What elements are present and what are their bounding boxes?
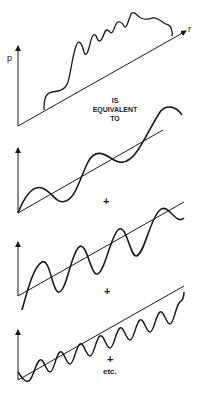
- plus-sign-1: +: [103, 195, 109, 207]
- caption-line-3: TO: [80, 114, 150, 123]
- component-2-wave: [22, 208, 184, 310]
- caption-line-2: EQUIVALENT: [80, 105, 150, 114]
- caption-line-1: IS: [80, 96, 150, 105]
- component-1-baseline: [18, 130, 163, 213]
- plus-sign-3: +: [107, 353, 113, 365]
- component-3-baseline: [18, 286, 184, 380]
- equivalence-caption: IS EQUIVALENT TO: [80, 96, 150, 123]
- etc-label: etc.: [103, 367, 117, 376]
- r-axis-label: r: [188, 24, 191, 34]
- p-axis-label: p: [7, 53, 12, 63]
- component-2-plot: [18, 202, 184, 310]
- component-2-baseline: [18, 202, 184, 296]
- component-3-plot: [18, 286, 184, 381]
- diagram-canvas: [0, 0, 199, 404]
- component-3-wave: [18, 292, 184, 381]
- plus-sign-2: +: [104, 285, 110, 297]
